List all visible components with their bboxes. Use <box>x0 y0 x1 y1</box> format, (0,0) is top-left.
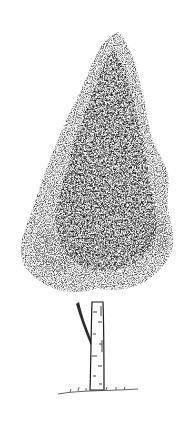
tree-illustration <box>0 0 193 423</box>
trunk <box>90 302 104 390</box>
tree-drawing <box>0 0 193 423</box>
canopy <box>21 32 174 292</box>
